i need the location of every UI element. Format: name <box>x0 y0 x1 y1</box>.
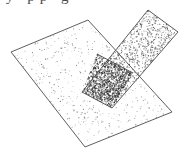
figure-container: y pp g <box>0 0 189 160</box>
intersecting-planes-diagram <box>0 0 189 160</box>
large-plane-outline <box>11 20 172 147</box>
